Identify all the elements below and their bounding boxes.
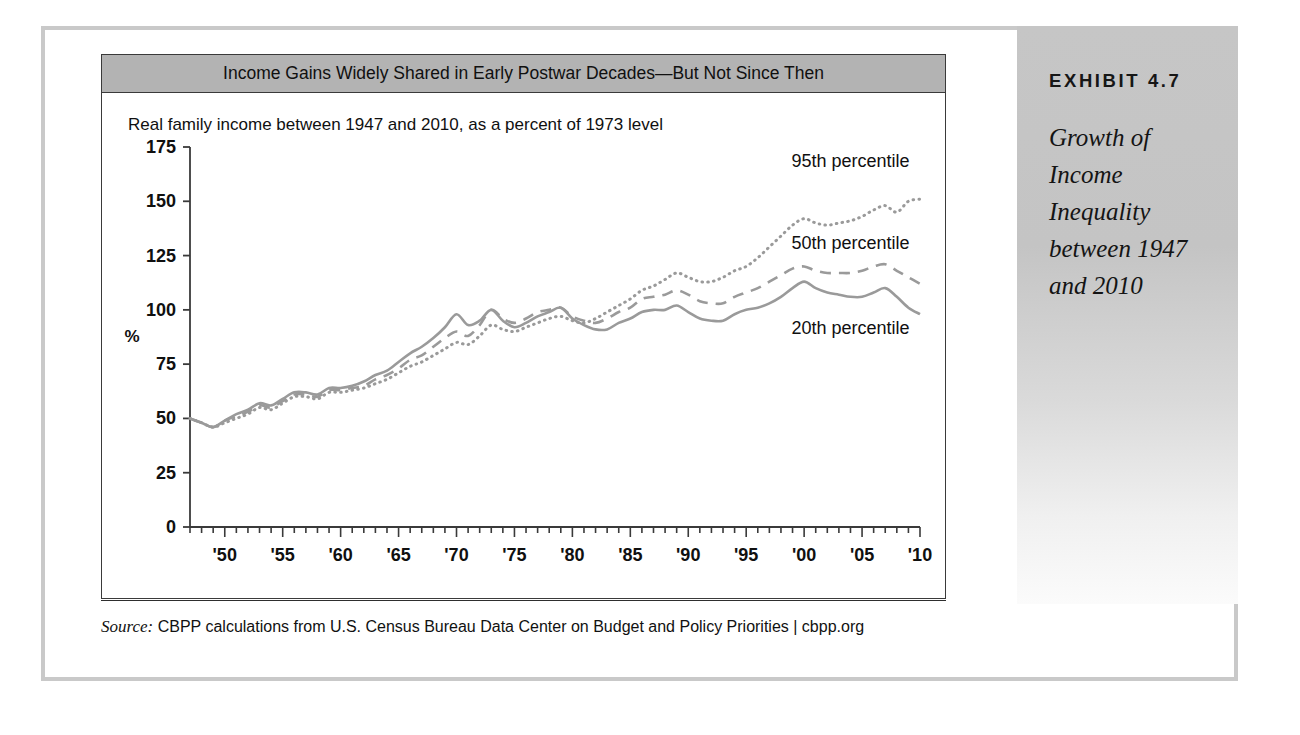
x-tick-label: '00 [792, 545, 816, 565]
exhibit-sidebar-content: EXHIBIT 4.7 Growth of Income Inequality … [1017, 26, 1238, 304]
chart-header-title: Income Gains Widely Shared in Early Post… [223, 63, 824, 84]
y-axis-ticks-group [183, 147, 190, 527]
y-tick-label: 50 [156, 408, 176, 428]
x-axis-ticks-group [190, 527, 920, 537]
source-divider [101, 600, 946, 601]
x-tick-label: '75 [502, 545, 526, 565]
y-tick-label: 25 [156, 463, 176, 483]
plot-area: 0255075100125150175 '50'55'60'65'70'75'8… [102, 135, 947, 590]
x-tick-label: '85 [618, 545, 642, 565]
exhibit-page: EXHIBIT 4.7 Growth of Income Inequality … [0, 0, 1300, 735]
y-tick-label: 100 [146, 300, 176, 320]
chart-card: Income Gains Widely Shared in Early Post… [101, 54, 946, 599]
x-tick-label: '90 [676, 545, 700, 565]
y-tick-label: 150 [146, 191, 176, 211]
x-axis-labels-group: '50'55'60'65'70'75'80'85'90'95'00'05'10 [213, 545, 933, 565]
x-tick-label: '05 [850, 545, 874, 565]
x-tick-label: '70 [444, 545, 468, 565]
source-footer: Source: CBPP calculations from U.S. Cens… [101, 600, 946, 640]
x-tick-label: '60 [328, 545, 352, 565]
y-tick-label: 125 [146, 246, 176, 266]
y-tick-label: 75 [156, 354, 176, 374]
x-tick-label: '55 [271, 545, 295, 565]
chart-subtitle: Real family income between 1947 and 2010… [102, 93, 945, 135]
exhibit-title: Growth of Income Inequality between 1947… [1049, 119, 1227, 304]
series-annotation: 95th percentile [791, 151, 909, 171]
line-chart-svg: 0255075100125150175 '50'55'60'65'70'75'8… [102, 135, 947, 590]
series-annotation: 50th percentile [791, 233, 909, 253]
y-axis-title: % [124, 327, 139, 346]
x-tick-label: '10 [908, 545, 932, 565]
y-tick-label: 175 [146, 137, 176, 157]
series-line-50th-percentile [190, 264, 920, 427]
y-tick-label: 0 [166, 517, 176, 537]
series-line-20th-percentile [190, 282, 920, 428]
y-axis-labels-group: 0255075100125150175 [146, 137, 176, 537]
series-annotations-group: 95th percentile50th percentile20th perce… [791, 151, 909, 338]
x-tick-label: '50 [213, 545, 237, 565]
chart-header-band: Income Gains Widely Shared in Early Post… [102, 55, 945, 93]
source-body: CBPP calculations from U.S. Census Burea… [153, 618, 864, 635]
series-annotation: 20th percentile [791, 318, 909, 338]
x-tick-label: '95 [734, 545, 758, 565]
source-label: Source: [101, 617, 153, 636]
source-note: Source: CBPP calculations from U.S. Cens… [101, 613, 946, 640]
x-tick-label: '65 [386, 545, 410, 565]
x-tick-label: '80 [560, 545, 584, 565]
exhibit-number-label: EXHIBIT 4.7 [1049, 70, 1238, 92]
exhibit-sidebar: EXHIBIT 4.7 Growth of Income Inequality … [1017, 26, 1238, 604]
y-axis-title-group: % [124, 327, 139, 346]
